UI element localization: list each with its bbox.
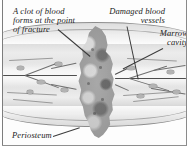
clot-speck [87,82,90,85]
label-periosteum-line-1: Periosteum [12,131,52,140]
lacuna [149,84,157,88]
leader-line-periosteum [53,127,80,137]
clot-speck [93,112,96,115]
lacuna [17,66,24,70]
label-clot-line-3: of fracture [13,25,75,34]
lacuna [27,90,33,94]
label-damaged-blood-vessels: Damaged blood vessels [103,7,165,25]
lacuna [61,88,68,92]
clot-speck [99,66,102,69]
label-marrow-line-2: cavity [143,38,186,47]
lacuna [167,70,174,74]
lacuna [55,62,62,66]
label-clot: A clot of blood forms at the point of fr… [13,7,75,35]
clot-speck [101,98,104,101]
frame-rule-bottom [2,145,187,146]
lacuna [137,94,144,98]
lacuna [173,90,180,94]
illustration-plate: A clot of blood forms at the point of fr… [3,0,186,145]
figure-bone-fracture: A clot of blood forms at the point of fr… [0,0,193,152]
label-marrow-cavity: Marrow cavity [143,29,186,47]
frame-rule-right [186,0,187,146]
label-periosteum: Periosteum [12,131,52,140]
clot-speck [91,48,94,51]
label-vessels-line-2: vessels [103,16,165,25]
lacuna [37,80,45,84]
